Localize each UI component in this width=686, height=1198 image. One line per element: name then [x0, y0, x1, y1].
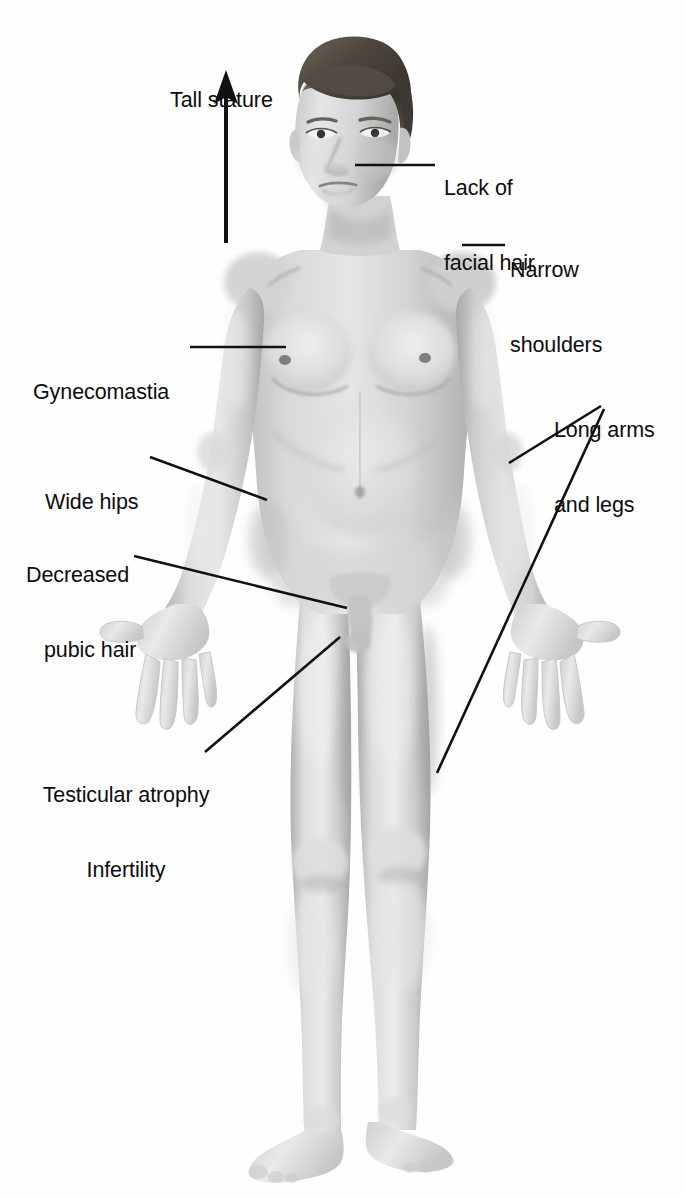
right-hand	[511, 604, 584, 661]
right-calf	[378, 881, 430, 989]
label-wide-hips-line-1: Wide hips	[45, 490, 139, 515]
label-decreased-pubic-hair: Decreased pubic hair	[26, 513, 136, 713]
label-tall-stature-line-1: Tall stature	[170, 88, 273, 113]
left-breast	[264, 312, 352, 392]
label-narrow-shoulders-line-2: shoulders	[510, 333, 602, 358]
left-upper-arm-highlight	[224, 308, 248, 412]
right-index-finger	[560, 654, 584, 724]
label-infertility-line-2: Infertility	[28, 858, 224, 883]
left-ring-finger	[182, 658, 198, 725]
left-forearm-highlight	[186, 482, 210, 574]
right-hip-curve	[432, 502, 472, 578]
label-gynecomastia: Gynecomastia	[33, 330, 169, 455]
left-elbow	[197, 432, 231, 472]
chin	[322, 188, 358, 208]
label-testicular-atrophy-line-1: Testicular atrophy	[28, 783, 224, 808]
label-long-arms-and-legs-line-2: and legs	[554, 493, 655, 518]
left-knee-shade	[300, 875, 344, 893]
left-hip-curve	[248, 502, 288, 578]
label-narrow-shoulders-line-1: Narrow	[510, 258, 602, 283]
label-long-arms-and-legs: Long arms and legs	[554, 368, 655, 568]
left-calf	[288, 893, 336, 997]
label-tall-stature: Tall stature	[170, 38, 273, 163]
left-hand	[137, 604, 210, 661]
left-little-finger	[199, 652, 217, 707]
right-breast	[368, 312, 456, 392]
right-middle-finger	[542, 658, 560, 729]
scrotum	[345, 631, 371, 653]
right-cheek	[362, 138, 398, 178]
label-decreased-pubic-hair-line-1: Decreased	[26, 563, 136, 588]
klinefelter-features-diagram: Tall stature Lack of facial hair Narrow …	[0, 0, 686, 1198]
right-little-finger	[503, 652, 521, 707]
right-ear	[398, 128, 411, 164]
label-long-arms-and-legs-line-1: Long arms	[554, 418, 655, 443]
label-testicular-atrophy-infertility: Testicular atrophy Infertility	[28, 733, 224, 933]
left-thigh-highlight	[296, 618, 340, 762]
right-thumb	[576, 621, 620, 642]
right-nipple	[419, 353, 431, 363]
left-cheek	[296, 142, 328, 178]
left-index-finger	[136, 654, 160, 724]
label-lack-of-facial-hair-line-1: Lack of	[444, 176, 535, 201]
right-forearm-highlight	[508, 482, 532, 574]
label-gynecomastia-line-1: Gynecomastia	[33, 380, 169, 405]
label-decreased-pubic-hair-line-2: pubic hair	[26, 638, 136, 663]
navel	[355, 486, 365, 498]
right-ankle	[379, 1099, 413, 1125]
right-thigh-highlight	[368, 614, 416, 766]
left-nipple	[279, 355, 291, 365]
right-ring-finger	[522, 658, 538, 725]
head-and-neck	[289, 37, 413, 256]
left-middle-finger	[160, 658, 178, 729]
right-thigh-shadow	[418, 625, 438, 795]
left-ankle	[305, 1107, 339, 1133]
right-elbow	[489, 432, 523, 472]
